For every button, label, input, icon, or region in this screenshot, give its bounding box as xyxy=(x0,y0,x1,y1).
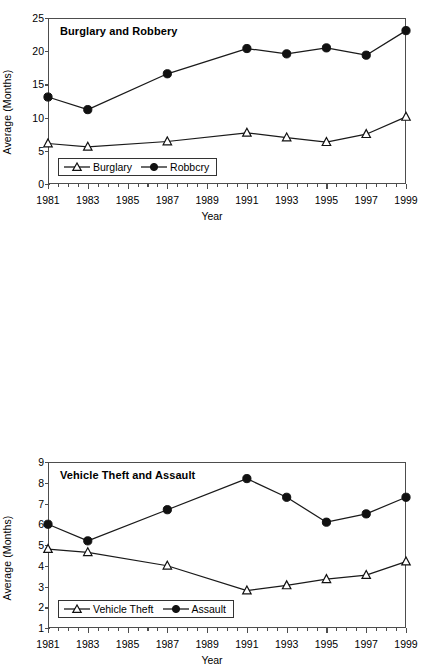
y-tick-label: 9 xyxy=(38,456,44,468)
legend-circle-icon xyxy=(141,161,167,173)
y-axis-ticks: 123456789 xyxy=(16,446,44,669)
data-point-marker xyxy=(44,93,52,101)
chart-title: Burglary and Robbery xyxy=(60,25,178,37)
data-point-marker xyxy=(362,510,370,518)
data-point-marker xyxy=(243,44,251,52)
legend-entry: Assault xyxy=(163,603,226,615)
data-point-marker xyxy=(243,128,251,136)
y-tick-label: 6 xyxy=(38,518,44,530)
series-line xyxy=(48,479,406,541)
x-minor-ticks xyxy=(0,628,424,632)
y-tick-label: 8 xyxy=(38,477,44,489)
y-tick-label: 15 xyxy=(32,78,44,90)
data-point-marker xyxy=(402,557,410,565)
chart-panel-burglary-robbery: Average (Months) 0510152025 Burglary and… xyxy=(0,0,424,223)
chart-legend: BurglaryRobbcry xyxy=(58,158,217,176)
chart-title: Vehicle Theft and Assault xyxy=(60,469,195,481)
legend-entry: Burglary xyxy=(64,161,132,173)
series-line xyxy=(48,549,406,591)
y-tick-label: 7 xyxy=(38,498,44,510)
legend-label: Robbcry xyxy=(170,161,209,173)
data-point-marker xyxy=(163,506,171,514)
x-tick-label: 1991 xyxy=(235,638,258,650)
data-point-marker xyxy=(44,139,52,147)
x-tick-label: 1995 xyxy=(315,194,338,206)
legend-entry: Vehicle Theft xyxy=(64,603,154,615)
x-tick-label: 1999 xyxy=(394,194,417,206)
data-point-marker xyxy=(163,70,171,78)
chart-panel-vehicle-theft-assault: Average (Months) 123456789 Vehicle Theft… xyxy=(0,446,424,669)
y-axis-ticks: 0510152025 xyxy=(16,0,44,223)
series-line xyxy=(48,31,406,110)
x-tick-label: 1989 xyxy=(195,638,218,650)
data-point-marker xyxy=(243,475,251,483)
x-tick-label: 1999 xyxy=(394,638,417,650)
x-tick-label: 1985 xyxy=(116,638,139,650)
x-tick-label: 1981 xyxy=(36,638,59,650)
legend-label: Vehicle Theft xyxy=(93,603,154,615)
y-tick-label: 25 xyxy=(32,12,44,24)
y-tick-label: 10 xyxy=(32,112,44,124)
y-axis-label: Average (Months) xyxy=(0,0,16,223)
legend-triangle-icon xyxy=(64,603,90,615)
x-axis-label: Year xyxy=(0,654,424,666)
figure-container: Average (Months) 0510152025 Burglary and… xyxy=(0,0,424,671)
x-tick-label: 1987 xyxy=(156,638,179,650)
data-point-marker xyxy=(402,493,410,501)
data-point-marker xyxy=(84,537,92,545)
data-point-marker xyxy=(322,44,330,52)
data-point-marker xyxy=(84,106,92,114)
x-tick-label: 1997 xyxy=(355,638,378,650)
x-axis-label: Year xyxy=(0,210,424,222)
series-line xyxy=(48,117,406,147)
x-tick-label: 1983 xyxy=(76,638,99,650)
legend-circle-icon xyxy=(163,603,189,615)
chart-legend: Vehicle TheftAssault xyxy=(58,600,234,618)
x-tick-label: 1983 xyxy=(76,194,99,206)
x-minor-ticks xyxy=(0,184,424,188)
y-tick-label: 5 xyxy=(38,539,44,551)
x-tick-label: 1991 xyxy=(235,194,258,206)
data-point-marker xyxy=(283,50,291,58)
data-point-marker xyxy=(283,493,291,501)
x-tick-label: 1993 xyxy=(275,638,298,650)
legend-triangle-icon xyxy=(64,161,90,173)
y-axis-label: Average (Months) xyxy=(0,446,16,669)
data-point-marker xyxy=(402,112,410,120)
data-point-marker xyxy=(322,518,330,526)
legend-entry: Robbcry xyxy=(141,161,209,173)
x-tick-label: 1987 xyxy=(156,194,179,206)
legend-label: Assault xyxy=(192,603,226,615)
y-tick-label: 5 xyxy=(38,145,44,157)
x-tick-label: 1985 xyxy=(116,194,139,206)
y-tick-label: 4 xyxy=(38,560,44,572)
data-point-marker xyxy=(362,51,370,59)
x-tick-label: 1981 xyxy=(36,194,59,206)
x-tick-label: 1997 xyxy=(355,194,378,206)
x-tick-label: 1993 xyxy=(275,194,298,206)
data-point-marker xyxy=(44,520,52,528)
legend-label: Burglary xyxy=(93,161,132,173)
y-tick-label: 3 xyxy=(38,581,44,593)
y-tick-label: 2 xyxy=(38,601,44,613)
x-tick-label: 1989 xyxy=(195,194,218,206)
x-tick-label: 1995 xyxy=(315,638,338,650)
y-tick-label: 20 xyxy=(32,45,44,57)
data-point-marker xyxy=(402,27,410,35)
